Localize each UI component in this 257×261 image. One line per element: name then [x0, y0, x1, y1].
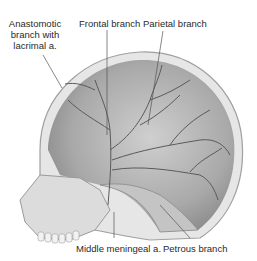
label-petrous-branch: Petrous branch [163, 243, 227, 254]
label-line: Anastomotic [6, 18, 64, 29]
label-line: branch with [6, 29, 64, 40]
label-frontal-branch: Frontal branch [79, 18, 140, 29]
label-middle-meningeal: Middle meningeal a. [76, 243, 161, 254]
label-anastomotic-branch: Anastomotic branch with lacrimal a. [6, 18, 64, 51]
label-parietal-branch: Parietal branch [143, 18, 207, 29]
label-line: lacrimal a. [6, 40, 64, 51]
